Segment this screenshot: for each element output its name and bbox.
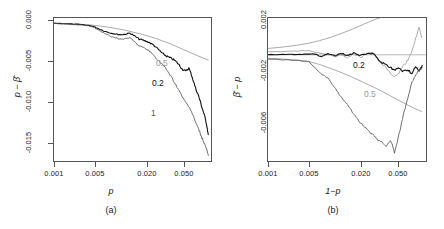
panel-a-x-axis-label: p	[0, 186, 222, 196]
panel-b-y-axis-label: β̂ − p	[232, 64, 242, 110]
panel-a-curves	[54, 18, 211, 161]
panel-b-caption: (b)	[222, 205, 444, 215]
panel-b-xtick-3: 0.050	[388, 169, 407, 178]
panel-a-series-label-1: 0.2	[152, 78, 164, 88]
panel-a-ytick-3: -0.015	[24, 123, 33, 163]
panel-a-xtick-0: 0.001	[44, 169, 63, 178]
panel-a-series-label-0: 0.5	[156, 58, 168, 68]
panel-a-caption: (a)	[0, 205, 222, 215]
panel-b-curves	[268, 18, 426, 161]
panel-b-x-axis-label: 1−p	[222, 186, 444, 196]
panel-a-plot-area	[53, 17, 212, 162]
panel-b-xtickmark-0	[268, 162, 269, 167]
panel-a-ytick-2: -0.010	[24, 82, 33, 122]
panel-a-y-axis-label: p − β̂	[12, 64, 22, 110]
panel-a: p − β̂ 0.000 -0.005 -0.010 -0.015 0.001 …	[0, 0, 222, 229]
panel-a-xtick-2: 0.020	[137, 169, 156, 178]
panel-a-xtickmark-0	[54, 162, 55, 167]
panel-b-xtickmark-1	[309, 162, 310, 167]
panel-a-xtick-1: 0.005	[85, 169, 104, 178]
panel-a-ytick-0: 0.000	[24, 2, 33, 38]
panel-b-plot-area	[267, 17, 427, 162]
panel-b-xtick-0: 0.001	[258, 169, 277, 178]
panel-a-xtickmark-1	[95, 162, 96, 167]
panel-b-xtickmark-2	[361, 162, 362, 167]
panel-a-ytick-1: -0.005	[24, 41, 33, 81]
panel-a-xtickmark-2	[147, 162, 148, 167]
figure-container: p − β̂ 0.000 -0.005 -0.010 -0.015 0.001 …	[0, 0, 444, 229]
panel-b-xtick-2: 0.020	[351, 169, 370, 178]
panel-a-xtick-3: 0.050	[174, 169, 193, 178]
panel-b-xtickmark-3	[398, 162, 399, 167]
panel-b-series-label-0: 0.2	[353, 60, 365, 70]
panel-b-series-label-1: 0.5	[364, 89, 376, 99]
panel-b: β̂ − p 0.002 -0.002 -0.006 0.001 0.005 0…	[222, 0, 444, 229]
panel-b-xtick-1: 0.005	[299, 169, 318, 178]
panel-a-xtickmark-3	[184, 162, 185, 167]
panel-a-series-label-2: 1	[151, 108, 156, 118]
